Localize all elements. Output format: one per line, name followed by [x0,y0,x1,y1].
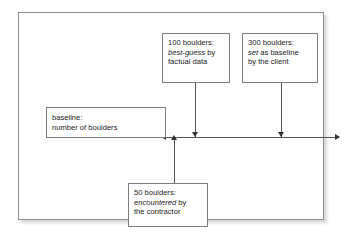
callout-line-1: 100 boulders: [168,38,225,48]
callout-line-1: baseline: [52,113,161,123]
callout-line-2: number of boulders [52,123,161,133]
callout-box-client-baseline: 300 boulders: set as baseline by the cli… [242,33,318,83]
callout-line-2: encountered by [134,198,203,208]
callout-line-3: factual data [168,57,225,67]
callout-box-encountered: 50 boulders: encountered by the contract… [128,183,208,227]
connector-line-client-baseline [281,83,282,137]
callout-line-1: 50 boulders: [134,188,203,198]
diagram-canvas: 100 boulders: best-guess by factual data… [0,0,346,240]
callout-line-3: by the client [248,57,313,67]
diagram-frame: 100 boulders: best-guess by factual data… [18,12,324,220]
connector-line-encountered [174,140,175,183]
arrow-up-icon-encountered [171,135,177,140]
callout-line-2-rest: by [176,198,186,207]
callout-line-2: best-guess by [168,48,225,58]
connector-line-best-guess [195,83,196,137]
callout-line-2-rest: by [205,48,215,57]
callout-emphasis: encountered [134,198,176,207]
callout-line-2: set as baseline [248,48,313,58]
callout-box-baseline-label: baseline: number of boulders [46,107,166,138]
arrow-down-icon-client-baseline [278,132,284,137]
callout-box-best-guess: 100 boulders: best-guess by factual data [162,33,230,83]
axis-right-arrowhead-icon [335,134,340,140]
baseline-axis-line [162,137,339,138]
arrow-down-icon-best-guess [192,132,198,137]
callout-line-1: 300 boulders: [248,38,313,48]
callout-line-2-rest: as baseline [258,48,299,57]
callout-emphasis: set [248,48,258,57]
callout-line-3: the contractor [134,207,203,217]
callout-emphasis: best-guess [168,48,205,57]
